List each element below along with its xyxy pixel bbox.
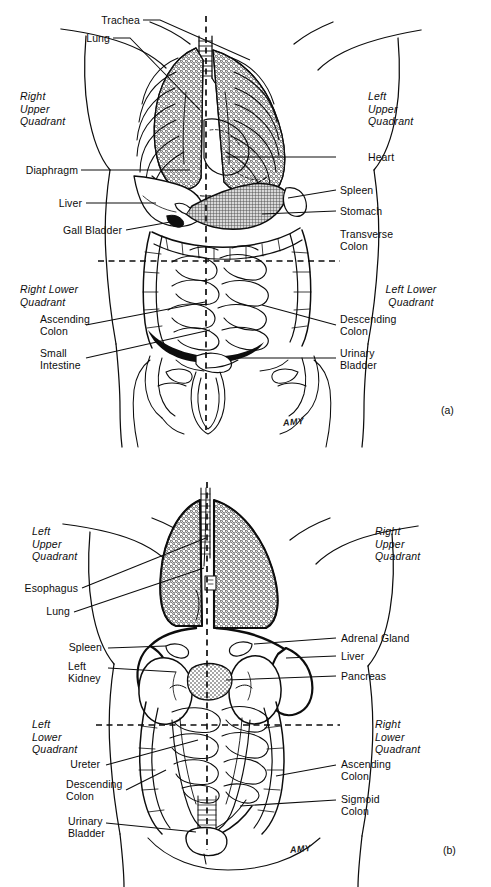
label-descending-colon-b: Descending Colon <box>66 778 158 803</box>
label-spleen-b: Spleen <box>36 641 102 653</box>
label-urinary-bladder-a: Urinary Bladder <box>340 347 426 372</box>
label-ascending-colon-b: Ascending Colon <box>341 758 433 783</box>
label-gall-bladder-a: Gall Bladder <box>40 224 122 236</box>
quadrant-right-upper-b: Right Upper Quadrant <box>375 525 471 563</box>
label-sigmoid-colon-b: Sigmoid Colon <box>341 793 429 818</box>
label-ureter-b: Ureter <box>36 758 100 770</box>
label-pancreas-b: Pancreas <box>341 670 417 682</box>
label-urinary-bladder-b: Urinary Bladder <box>68 815 148 840</box>
label-diaphragm-a: Diaphragm <box>10 164 78 176</box>
panel-tag-a: (a) <box>441 404 454 416</box>
quadrant-left-upper-b: Left Upper Quadrant <box>32 525 122 563</box>
label-lung-b: Lung <box>18 605 70 617</box>
figure-b-posterior-view: Left Upper Quadrant Right Upper Quadrant… <box>0 440 491 887</box>
quadrant-right-lower-a: Right Lower Quadrant <box>20 283 130 308</box>
label-lung-a: Lung <box>60 32 110 44</box>
quadrant-left-upper-a: Left Upper Quadrant <box>368 90 468 128</box>
quadrant-left-lower-b: Left Lower Quadrant <box>32 718 122 756</box>
label-liver-b: Liver <box>341 650 401 662</box>
label-descending-colon-a: Descending Colon <box>340 313 432 338</box>
label-ascending-colon-a: Ascending Colon <box>40 313 132 338</box>
label-adrenal-gland-b: Adrenal Gland <box>341 632 445 644</box>
label-esophagus-b: Esophagus <box>8 582 78 594</box>
label-stomach-a: Stomach <box>340 205 420 217</box>
panel-tag-b: (b) <box>443 844 456 856</box>
label-heart-a: Heart <box>368 151 438 163</box>
label-liver-a: Liver <box>30 197 82 209</box>
figure-a-anterior-view: Right Upper Quadrant Left Upper Quadrant… <box>0 0 491 450</box>
label-spleen-a: Spleen <box>340 184 410 196</box>
quadrant-right-upper-a: Right Upper Quadrant <box>20 90 110 128</box>
label-trachea-a: Trachea <box>60 14 140 26</box>
quadrant-right-lower-b: Right Lower Quadrant <box>375 718 471 756</box>
label-left-kidney-b: Left Kidney <box>68 660 128 685</box>
label-transverse-colon-a: Transverse Colon <box>340 228 430 253</box>
quadrant-left-lower-a: Left Lower Quadrant <box>352 283 470 308</box>
label-small-intestine-a: Small Intestine <box>40 347 132 372</box>
